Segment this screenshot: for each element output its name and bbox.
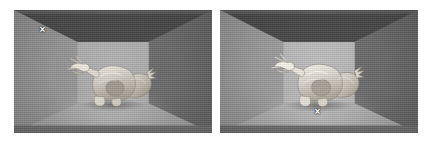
render-panel-left[interactable]: × <box>14 10 212 133</box>
dragon-statue <box>67 46 159 108</box>
render-panel-right[interactable]: × <box>220 10 418 133</box>
dragon-statue <box>271 43 367 109</box>
figure-root: × <box>0 0 434 145</box>
x-marker-left[interactable]: × <box>38 25 47 34</box>
x-marker-right[interactable]: × <box>313 107 322 116</box>
